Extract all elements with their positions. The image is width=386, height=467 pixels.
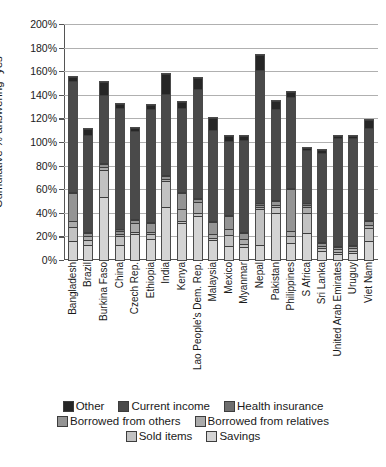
bar-segment (349, 138, 357, 244)
bar-segment (194, 202, 202, 213)
bar-column (330, 24, 346, 260)
bar-segment (116, 108, 124, 230)
x-axis-tick-label: Lao People's Dem. Rep. (193, 262, 203, 370)
x-label-cell: Philippines (283, 262, 299, 374)
stacked-bar[interactable] (318, 150, 326, 260)
legend-item[interactable]: Current income (118, 400, 210, 412)
bar-column (143, 24, 159, 260)
stacked-bar[interactable] (100, 82, 108, 260)
y-tick-label: 100% (30, 137, 57, 148)
legend-label: Borrowed from others (70, 415, 181, 427)
bar-segment (272, 101, 280, 109)
legend-swatch-icon (126, 431, 137, 442)
bar-column (315, 24, 331, 260)
bar-column (81, 24, 97, 260)
legend-swatch-icon (63, 401, 74, 412)
x-axis-tick-label: Pakistan (271, 262, 281, 300)
legend-item[interactable]: Borrowed from others (57, 415, 181, 427)
legend-swatch-icon (195, 416, 206, 427)
stacked-bar[interactable] (178, 102, 186, 260)
x-axis-tick-label: India (161, 262, 171, 284)
x-label-cell: S Africa (299, 262, 315, 374)
legend-item[interactable]: Other (63, 400, 105, 412)
x-axis-tick-label: Brazil (83, 262, 93, 287)
stacked-bar[interactable] (349, 136, 357, 260)
legend-label: Current income (131, 400, 210, 412)
bar-segment (162, 207, 170, 260)
bar-segment (287, 189, 295, 230)
bar-segment (131, 131, 139, 218)
x-axis-tick-label: Kenya (177, 262, 187, 290)
bar-segment (69, 193, 77, 221)
legend-item[interactable]: Savings (206, 430, 260, 442)
stacked-bar[interactable] (303, 148, 311, 260)
bar-segment (162, 74, 170, 94)
bar-segment (287, 97, 295, 188)
bar-segment (365, 241, 373, 260)
x-axis-tick-label: Ethiopia (146, 262, 156, 298)
x-label-cell: Bangladesh (65, 262, 81, 374)
bar-column (252, 24, 268, 260)
bar-column (346, 24, 362, 260)
bar-segment (100, 170, 108, 197)
legend-item[interactable]: Borrowed from relatives (195, 415, 329, 427)
bar-segment (287, 243, 295, 260)
x-axis-labels: BangladeshBrazilBurkina FasoChinaCzech R… (64, 262, 378, 374)
x-axis-tick-label: Uruguy (348, 262, 358, 294)
bar-segment (318, 153, 326, 243)
bar-column (299, 24, 315, 260)
stacked-bar[interactable] (240, 136, 248, 260)
bar-segment (100, 82, 108, 95)
bar-segment (318, 251, 326, 260)
bar-column (283, 24, 299, 260)
stacked-bar-chart: Cumulative % answering "yes" 0%20%40%60%… (0, 0, 386, 467)
x-label-cell: India (159, 262, 175, 374)
x-axis-tick-label: Sri Lanka (317, 262, 327, 304)
y-tick-label: 60% (36, 184, 57, 195)
y-tick-label: 120% (30, 113, 57, 124)
bar-segment (303, 213, 311, 233)
stacked-bar[interactable] (69, 77, 77, 260)
x-axis-tick-label: Bangladesh (68, 262, 78, 315)
x-label-cell: United Arab Emirates (330, 262, 346, 374)
bar-segment (240, 140, 248, 232)
x-axis-tick-label: Burkina Faso (99, 262, 109, 321)
x-axis-tick-label: Malaysia (208, 262, 218, 301)
stacked-bar[interactable] (365, 120, 373, 260)
bar-segment (178, 223, 186, 260)
stacked-bar[interactable] (225, 136, 233, 260)
bar-segment (303, 233, 311, 260)
stacked-bar[interactable] (334, 136, 342, 260)
legend-item[interactable]: Sold items (126, 430, 193, 442)
bar-column (65, 24, 81, 260)
stacked-bar[interactable] (147, 105, 155, 260)
x-label-cell: Sri Lanka (315, 262, 331, 374)
stacked-bar[interactable] (131, 128, 139, 260)
bar-segment (209, 222, 217, 234)
bar-segment (147, 223, 155, 231)
stacked-bar[interactable] (116, 104, 124, 260)
x-axis-tick-label: Myanmar (239, 262, 249, 304)
bar-segment (147, 239, 155, 260)
y-tick-label: 160% (30, 66, 57, 77)
bar-segment (147, 109, 155, 222)
x-axis-tick-label: China (115, 262, 125, 288)
stacked-bar[interactable] (194, 78, 202, 260)
stacked-bar[interactable] (84, 129, 92, 260)
stacked-bar[interactable] (162, 74, 170, 260)
bar-column (159, 24, 175, 260)
bar-segment (287, 236, 295, 243)
x-label-cell: Brazil (81, 262, 97, 374)
bar-segment (69, 227, 77, 241)
stacked-bar[interactable] (287, 92, 295, 260)
stacked-bar[interactable] (272, 101, 280, 260)
stacked-bar[interactable] (256, 55, 264, 260)
bar-column (268, 24, 284, 260)
legend-item[interactable]: Health insurance (224, 400, 323, 412)
bar-segment (209, 240, 217, 260)
x-label-cell: Czech Rep. (127, 262, 143, 374)
stacked-bar[interactable] (209, 118, 217, 260)
bar-column (361, 24, 377, 260)
bar-segment (334, 138, 342, 245)
legend-row: OtherCurrent incomeHealth insurance (63, 400, 324, 412)
